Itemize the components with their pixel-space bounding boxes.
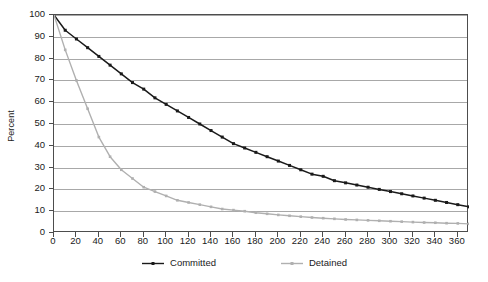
x-tick-mark-60 <box>120 232 121 237</box>
data-point <box>109 155 112 158</box>
x-tick-mark-360 <box>457 232 458 237</box>
data-point <box>333 218 336 221</box>
data-point <box>199 203 202 206</box>
data-point <box>210 206 213 209</box>
data-point <box>54 15 55 16</box>
series-line-detained <box>54 15 469 224</box>
data-point <box>109 64 112 67</box>
x-tick-mark-0 <box>53 232 54 237</box>
data-point <box>187 201 190 204</box>
x-tick-mark-20 <box>75 232 76 237</box>
data-point <box>456 222 459 225</box>
y-tick-label-60: 60 <box>19 96 45 106</box>
x-tick-mark-100 <box>165 232 166 237</box>
x-tick-mark-80 <box>143 232 144 237</box>
data-point <box>243 210 246 213</box>
data-point <box>120 168 123 171</box>
series-line-committed <box>54 15 469 207</box>
data-point <box>210 129 213 132</box>
data-point <box>142 186 145 189</box>
data-point <box>255 211 258 214</box>
x-tick-label-360: 360 <box>444 236 470 246</box>
data-point <box>86 46 89 49</box>
data-point <box>322 175 325 178</box>
legend-swatch-detained-icon <box>280 259 304 268</box>
data-point <box>165 195 168 198</box>
x-tick-mark-140 <box>210 232 211 237</box>
series-committed <box>54 15 469 208</box>
y-tick-label-40: 40 <box>19 140 45 150</box>
x-tick-mark-200 <box>277 232 278 237</box>
data-point <box>378 188 381 191</box>
data-point <box>434 199 437 202</box>
y-axis-title-text: Percent <box>6 110 16 142</box>
data-point <box>232 209 235 212</box>
y-tick-label-20: 20 <box>19 183 45 193</box>
x-tick-mark-300 <box>389 232 390 237</box>
data-point <box>456 203 459 206</box>
data-point <box>468 223 469 226</box>
y-tick-label-80: 80 <box>19 53 45 63</box>
data-point <box>445 222 448 225</box>
data-point <box>131 177 134 180</box>
data-point <box>254 151 257 154</box>
y-axis-title: Percent <box>2 96 20 156</box>
x-tick-mark-320 <box>412 232 413 237</box>
data-point <box>288 164 291 167</box>
data-point <box>434 221 437 224</box>
data-point <box>400 220 403 223</box>
data-point <box>154 190 157 193</box>
series-detained <box>54 15 469 225</box>
legend-label: Detained <box>309 258 347 268</box>
data-point <box>142 88 145 91</box>
data-point <box>333 179 336 182</box>
data-point <box>344 181 347 184</box>
chart-legend: CommittedDetained <box>0 258 488 268</box>
data-point <box>411 194 414 197</box>
legend-item-committed[interactable]: Committed <box>141 258 216 268</box>
data-point <box>232 142 235 145</box>
legend-label: Committed <box>170 258 216 268</box>
x-tick-mark-180 <box>255 232 256 237</box>
y-tick-label-30: 30 <box>19 162 45 172</box>
data-point <box>355 184 358 187</box>
y-tick-label-50: 50 <box>19 118 45 128</box>
x-tick-mark-220 <box>300 232 301 237</box>
data-point <box>243 146 246 149</box>
data-point <box>367 219 370 222</box>
data-point <box>75 79 78 82</box>
data-point <box>423 221 426 224</box>
data-point <box>288 214 291 217</box>
data-point <box>445 201 448 204</box>
data-point <box>176 109 179 112</box>
x-tick-mark-160 <box>232 232 233 237</box>
data-point <box>400 192 403 195</box>
legend-item-detained[interactable]: Detained <box>280 258 347 268</box>
data-point <box>64 29 67 32</box>
data-point <box>86 107 89 110</box>
data-point <box>310 173 313 176</box>
data-point <box>165 103 168 106</box>
y-tick-label-70: 70 <box>19 74 45 84</box>
data-point <box>64 49 67 52</box>
y-tick-label-100: 100 <box>19 9 45 19</box>
data-point <box>266 155 269 158</box>
x-tick-mark-240 <box>322 232 323 237</box>
data-point <box>299 215 302 218</box>
data-point <box>176 199 179 202</box>
y-tick-label-90: 90 <box>19 31 45 41</box>
data-point <box>277 160 280 163</box>
data-point <box>187 116 190 119</box>
x-tick-mark-260 <box>345 232 346 237</box>
x-tick-mark-40 <box>98 232 99 237</box>
data-point <box>75 37 78 40</box>
data-point <box>221 136 224 139</box>
data-point <box>389 220 392 223</box>
x-tick-mark-280 <box>367 232 368 237</box>
data-point <box>356 219 359 222</box>
data-point <box>389 190 392 193</box>
data-point <box>198 123 201 126</box>
data-point <box>299 168 302 171</box>
data-point <box>423 197 426 200</box>
data-point <box>120 72 123 75</box>
